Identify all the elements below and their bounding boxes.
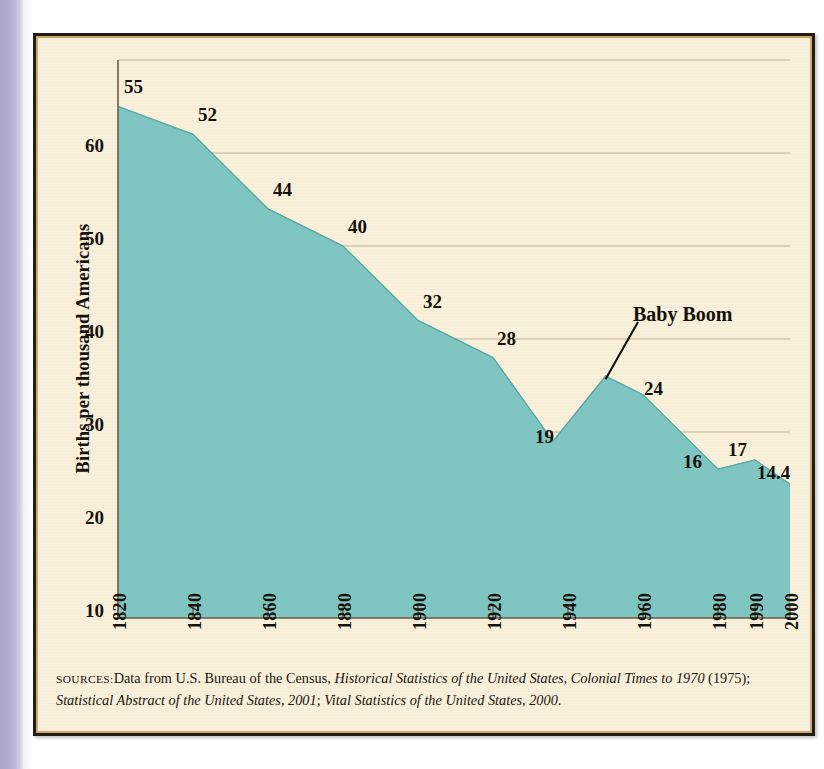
data-label-1936: 19	[535, 426, 554, 448]
data-label-1990: 17	[728, 439, 747, 461]
data-label-1900: 32	[423, 291, 442, 313]
annotation-baby-boom: Baby Boom	[633, 303, 732, 326]
figure-inner-panel: Births per thousand Americans	[36, 36, 812, 733]
x-tick-label-1990: 1990	[747, 593, 768, 630]
sources-line1-italic: Historical Statistics of the United Stat…	[334, 670, 704, 686]
y-tick-label-40: 40	[64, 321, 104, 343]
x-tick-label-1820: 1820	[110, 593, 131, 630]
sources-line1-plain-a: Data from U.S. Bureau of the Census,	[114, 670, 335, 686]
y-tick-label-60: 60	[64, 135, 104, 157]
sources-line2-italic-a: Statistical Abstract of the United State…	[56, 692, 317, 708]
x-tick-label-1840: 1840	[185, 593, 206, 630]
x-tick-label-1920: 1920	[485, 593, 506, 630]
y-tick-label-20: 20	[64, 507, 104, 529]
data-label-1980: 16	[683, 451, 702, 473]
data-label-1880: 40	[348, 216, 367, 238]
data-label-1960: 24	[644, 378, 663, 400]
data-label-1920: 28	[497, 328, 516, 350]
x-tick-label-1900: 1900	[410, 593, 431, 630]
sources-label: SOURCES:	[56, 673, 114, 685]
y-tick-label-30: 30	[64, 414, 104, 436]
area-series	[118, 107, 790, 619]
page-edge-strip	[0, 0, 23, 769]
y-tick-label-50: 50	[64, 228, 104, 250]
chart-svg	[38, 38, 814, 735]
data-label-1820: 55	[124, 76, 143, 98]
x-tick-label-1860: 1860	[260, 593, 281, 630]
x-tick-label-2000: 2000	[782, 593, 803, 630]
sources-line2-plain-b: .	[558, 692, 562, 708]
figure-frame: Births per thousand Americans	[33, 33, 815, 736]
sources-line1-plain-b: (1975);	[705, 670, 751, 686]
data-label-1860: 44	[273, 179, 292, 201]
data-label-1840: 52	[198, 104, 217, 126]
chart-plot-area: Births per thousand Americans	[38, 38, 814, 735]
y-tick-label-10: 10	[64, 600, 104, 622]
sources-line2-italic-b: Vital Statistics of the United States, 2…	[324, 692, 558, 708]
data-label-2000: 14.4	[757, 462, 790, 484]
baby-boom-leader-line	[606, 322, 639, 379]
page-edge-shadow	[23, 0, 32, 769]
x-tick-label-1960: 1960	[635, 593, 656, 630]
sources-note: SOURCES:Data from U.S. Bureau of the Cen…	[56, 668, 798, 711]
x-tick-label-1880: 1880	[335, 593, 356, 630]
x-tick-label-1980: 1980	[710, 593, 731, 630]
x-tick-label-1940: 1940	[560, 593, 581, 630]
